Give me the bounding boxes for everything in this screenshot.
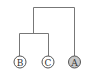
node-c-label: C — [45, 58, 52, 68]
dendrogram-branches — [20, 8, 75, 57]
node-a: A — [69, 56, 81, 68]
dendrogram: B C A — [0, 0, 89, 79]
bc-branch — [20, 34, 49, 57]
node-b-label: B — [17, 58, 24, 68]
node-c: C — [42, 56, 54, 68]
root-branch — [34, 8, 75, 57]
node-a-label: A — [70, 58, 78, 68]
node-b: B — [14, 56, 26, 68]
